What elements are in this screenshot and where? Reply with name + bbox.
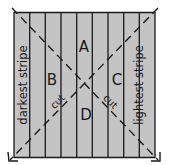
- region-label-a: A: [79, 38, 90, 56]
- region-label-b: B: [47, 71, 57, 89]
- lightest-stripe-label: lightest stripe: [132, 45, 146, 125]
- darkest-stripe-label: darkest stripe: [16, 45, 30, 124]
- region-label-d: D: [80, 106, 92, 124]
- region-label-c: C: [112, 71, 122, 89]
- quilt-cut-diagram: A B C D darkest stripe lightest stripe c…: [0, 0, 170, 165]
